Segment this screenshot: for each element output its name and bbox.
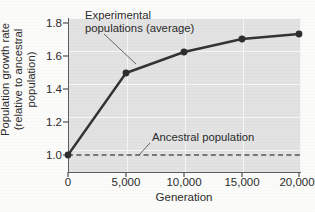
x-tick-label: 10,000 (166, 176, 201, 188)
annotation-experimental-line1: Experimental (85, 9, 194, 22)
annotation-ancestral-population: Ancestral population (152, 131, 254, 144)
data-point (239, 36, 246, 43)
ancestral-leader-line (139, 143, 150, 155)
annotation-experimental-line2: populations (average) (85, 22, 194, 35)
experimental-leader-line (104, 34, 136, 64)
x-tick-label: 15,000 (224, 176, 259, 188)
y-tick-label: 1.8 (46, 17, 62, 29)
y-axis-title-line2: (relative to ancestral population) (12, 0, 38, 160)
y-tick-label: 1.0 (46, 149, 62, 161)
y-tick-label: 1.2 (46, 116, 62, 128)
y-tick-label: 1.4 (46, 83, 62, 95)
figure-container: 1.0 1.2 1.4 1.6 1.8 0 5,000 10,000 15,00… (0, 0, 315, 212)
x-axis-title: Generation (68, 191, 300, 203)
y-axis-title: Population growth rate (relative to ance… (0, 0, 38, 160)
data-point (296, 31, 303, 38)
x-tick-label: 5,000 (112, 176, 141, 188)
y-axis-tick-labels: 1.0 1.2 1.4 1.6 1.8 (38, 0, 62, 212)
x-tick-label: 0 (65, 176, 71, 188)
annotation-experimental-populations: Experimental populations (average) (85, 9, 194, 35)
y-axis-title-line1: Population growth rate (0, 0, 12, 160)
data-point (181, 49, 188, 56)
y-axis-ticks (63, 23, 68, 155)
y-tick-label: 1.6 (46, 50, 62, 62)
data-point (123, 70, 130, 77)
data-point (65, 152, 72, 159)
x-tick-label: 20,000 (279, 176, 314, 188)
